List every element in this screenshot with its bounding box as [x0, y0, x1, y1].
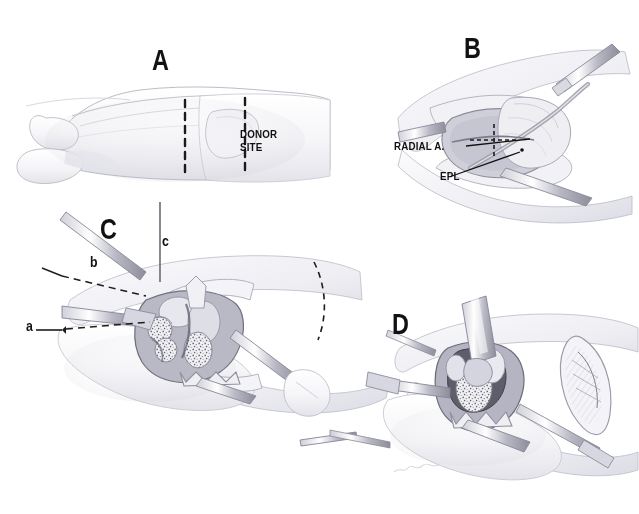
label-radial-artery: RADIAL A.	[394, 140, 444, 153]
marker-c: c	[162, 233, 169, 248]
label-donor-site: DONOR SITE	[240, 128, 277, 154]
panel-letter-b: B	[464, 33, 481, 63]
panel-letter-c: C	[100, 214, 117, 244]
marker-b: b	[90, 254, 98, 269]
panel-letter-d: D	[392, 309, 409, 339]
panel-letter-a: A	[152, 45, 169, 75]
surgical-figure: A B C D DONOR SITE RADIAL A. EPL a b c	[0, 0, 639, 514]
marker-a: a	[26, 318, 33, 333]
label-epl: EPL	[440, 170, 460, 183]
